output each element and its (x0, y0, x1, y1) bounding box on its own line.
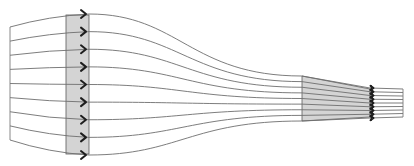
flow-tube-diagram (0, 0, 414, 166)
diagram-canvas (0, 0, 414, 166)
